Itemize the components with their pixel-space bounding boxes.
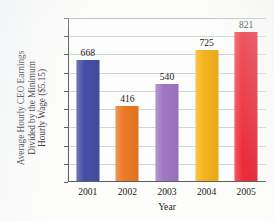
bar[interactable]: [155, 84, 178, 182]
bar-value-label: 416: [120, 93, 134, 104]
bar[interactable]: [116, 106, 139, 182]
x-tick-label: 2004: [187, 186, 227, 197]
bar-chart-figure: Average Hourly CEO Earnings Divided by t…: [0, 0, 274, 221]
y-axis-line: [68, 18, 69, 182]
bar[interactable]: [76, 60, 99, 182]
bar-value-label: 725: [199, 37, 213, 48]
x-tick-label: 2002: [108, 186, 148, 197]
bar-value-label: 668: [81, 47, 95, 58]
y-axis-title-line-1: Average Hourly CEO Earnings: [16, 51, 27, 165]
bar-group[interactable]: 540: [147, 18, 187, 182]
x-axis-line: [68, 181, 266, 182]
bar-value-label: 540: [160, 71, 174, 82]
bar[interactable]: [195, 50, 218, 182]
bar[interactable]: [235, 32, 258, 182]
y-axis-title: Average Hourly CEO Earnings Divided by t…: [0, 10, 64, 206]
bar-group[interactable]: 821: [226, 18, 266, 182]
y-axis-title-line-2: Divided by the Minimum: [27, 61, 38, 155]
bar-group[interactable]: 725: [187, 18, 227, 182]
y-axis-title-line-3: Hourly Wage ($5.15): [37, 69, 48, 147]
bars-layer: 668416540725821: [68, 18, 266, 182]
y-tick-mark: [64, 182, 68, 183]
bar-group[interactable]: 668: [68, 18, 108, 182]
x-tick-label: 2001: [68, 186, 108, 197]
bar-group[interactable]: 416: [108, 18, 148, 182]
x-axis-title: Year: [68, 201, 266, 212]
x-tick-label: 2005: [226, 186, 266, 197]
x-axis-tick-labels: 20012002200320042005: [68, 186, 266, 200]
plot-area: 0100200300400500600700800900 66841654072…: [68, 18, 266, 182]
bar-value-label: 821: [239, 19, 253, 30]
x-tick-label: 2003: [147, 186, 187, 197]
